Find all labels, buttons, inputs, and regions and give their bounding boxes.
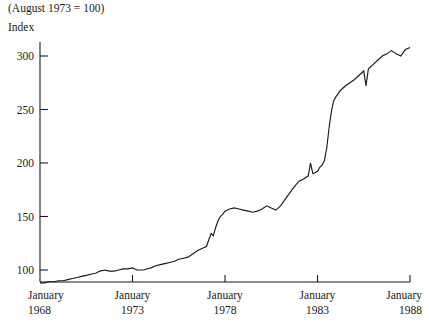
y-tick-label-100: 100 <box>17 264 35 276</box>
y-tick-label-150: 150 <box>17 211 35 223</box>
x-tick-label-month-1973: January <box>115 289 151 302</box>
y-tick-label-300: 300 <box>17 50 35 62</box>
index-series-line <box>40 47 410 282</box>
x-tick-label-month-1983: January <box>300 289 336 302</box>
chart-container: (August 1973 = 100) Index 10015020025030… <box>0 0 429 331</box>
axes-group <box>40 42 410 282</box>
x-tick-label-year-1988: 1988 <box>399 304 422 316</box>
line-chart-plot: 100150200250300 January1968January1973Ja… <box>0 0 429 331</box>
y-tick-label-250: 250 <box>17 104 35 116</box>
x-tick-marks <box>133 275 318 282</box>
x-tick-labels: January1968January1973January1978January… <box>28 289 422 316</box>
y-tick-label-200: 200 <box>17 157 35 169</box>
y-tick-marks <box>40 56 48 270</box>
x-tick-label-month-1988: January <box>386 289 422 302</box>
x-tick-label-year-1978: 1978 <box>214 304 237 316</box>
x-tick-label-month-1978: January <box>207 289 243 302</box>
y-tick-labels: 100150200250300 <box>17 50 35 276</box>
x-tick-label-year-1983: 1983 <box>306 304 329 316</box>
x-tick-label-year-1968: 1968 <box>28 304 51 316</box>
x-tick-label-month-1968: January <box>28 289 64 302</box>
x-tick-label-year-1973: 1973 <box>121 304 144 316</box>
